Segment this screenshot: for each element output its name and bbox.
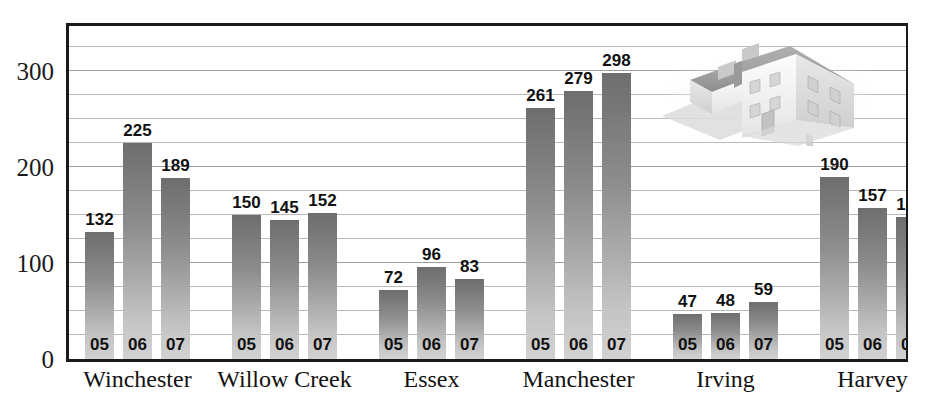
gridline: [69, 214, 906, 215]
bar-year-label: 05: [85, 335, 114, 355]
gridline: [69, 310, 906, 311]
bar-value-label: 72: [364, 268, 424, 288]
bar-year-label: 06: [711, 335, 740, 355]
bar-value-label: 83: [440, 257, 500, 277]
bar-value-label: 298: [587, 51, 647, 71]
bar-chart: 0100200300: [0, 0, 928, 401]
bar-year-label: 07: [455, 335, 484, 355]
bar-value-label: 225: [108, 121, 168, 141]
bar-year-label: 06: [417, 335, 446, 355]
y-axis-tick-label: 0: [42, 346, 55, 374]
y-axis-tick-label: 100: [17, 250, 55, 278]
bar-year-label: 07: [896, 335, 908, 355]
bar-year-label: 05: [232, 335, 261, 355]
bar-year-label: 05: [820, 335, 849, 355]
bar: 14807: [896, 217, 908, 359]
bar-value-label: 189: [146, 156, 206, 176]
gridline: [69, 190, 906, 191]
category-label: Irving: [696, 366, 755, 393]
bar-value-label: 148: [881, 195, 909, 215]
gridline: [69, 142, 906, 143]
category-label: Harvey: [837, 366, 908, 393]
plot-area: 1320522506189071500514506152077205960683…: [66, 23, 908, 362]
gridline: [69, 238, 906, 239]
category-label: Willow Creek: [217, 366, 351, 393]
bar-year-label: 06: [270, 335, 299, 355]
gridline: [69, 46, 906, 47]
bar-year-label: 06: [123, 335, 152, 355]
gridline: [69, 118, 906, 119]
bar-year-label: 07: [308, 335, 337, 355]
gridline: [69, 70, 906, 71]
bar-year-label: 07: [602, 335, 631, 355]
y-axis-tick-label: 300: [17, 58, 55, 86]
bar: 7205: [379, 290, 408, 359]
category-label: Essex: [404, 366, 460, 393]
bar: 8307: [455, 279, 484, 359]
gridline: [69, 94, 906, 95]
bar-year-label: 05: [526, 335, 555, 355]
bar: 29807: [602, 73, 631, 359]
bar-year-label: 07: [161, 335, 190, 355]
bar-value-label: 190: [805, 155, 865, 175]
bar-value-label: 261: [511, 86, 571, 106]
bar: 15005: [232, 215, 261, 359]
bar: 4806: [711, 313, 740, 359]
y-axis-tick-label: 200: [17, 154, 55, 182]
bar: 5907: [749, 302, 778, 359]
bar: 13205: [85, 232, 114, 359]
bar-year-label: 06: [858, 335, 887, 355]
bar: 4705: [673, 314, 702, 359]
bar: 14506: [270, 220, 299, 359]
bar: 18907: [161, 178, 190, 359]
bar: 26105: [526, 108, 555, 359]
bar-value-label: 152: [293, 191, 353, 211]
bar-year-label: 06: [564, 335, 593, 355]
bar-value-label: 132: [70, 210, 130, 230]
category-label: Manchester: [523, 366, 635, 393]
bar: 9606: [417, 267, 446, 359]
bar-value-label: 59: [734, 280, 794, 300]
bar-value-label: 279: [549, 69, 609, 89]
bar: 27906: [564, 91, 593, 359]
category-label: Winchester: [83, 366, 191, 393]
bar: 15706: [858, 208, 887, 359]
bar-year-label: 05: [379, 335, 408, 355]
bar: 15207: [308, 213, 337, 359]
gridline: [69, 334, 906, 335]
y-axis: 0100200300: [0, 23, 58, 362]
bar-year-label: 05: [673, 335, 702, 355]
bar-year-label: 07: [749, 335, 778, 355]
